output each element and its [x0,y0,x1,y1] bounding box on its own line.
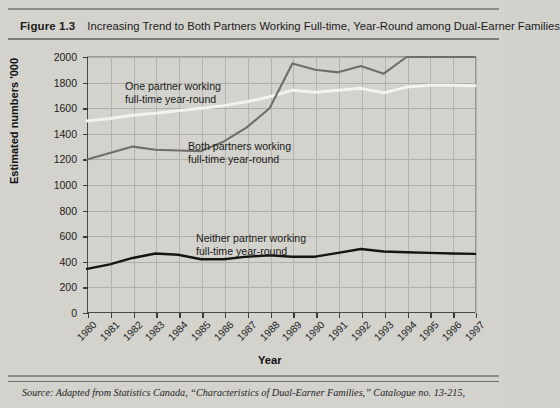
series-annotation-neither-partner: Neither partner working full-time year-r… [196,232,306,257]
figure-header: Figure 1.3 Increasing Trend to Both Part… [8,14,499,38]
header-divider-bottom [8,38,499,40]
series-annotation-both-partners: Both partners working full-time year-rou… [188,140,291,165]
footer-divider-top [8,375,499,377]
line-chart: Estimated numbers '000 Year 200018001600… [0,42,507,372]
series-annotation-one-partner: One partner working full-time year-round [125,80,221,105]
footer-divider-mid [8,381,499,382]
source-note: Source: Adapted from Statistics Canada, … [22,387,500,398]
header-divider-top [8,8,499,10]
figure-title: Increasing Trend to Both Partners Workin… [87,20,560,32]
series-lines [0,42,507,372]
figure-number: Figure 1.3 [20,20,75,32]
